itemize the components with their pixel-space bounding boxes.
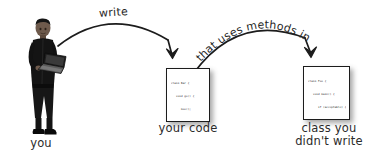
code-line: moo();	[171, 107, 206, 111]
caption-your-code: your code	[146, 122, 230, 135]
uses-arrow-label: that uses methods in	[193, 18, 312, 64]
write-arrowhead	[167, 49, 179, 59]
code-line: explode();	[308, 118, 346, 120]
code-sheet-foreign-class: class Foo { void main() { if (acceptable…	[303, 66, 350, 120]
code-line: class Bar {	[171, 81, 206, 85]
caption-class-you-didnt-write: class you didn't write	[286, 122, 372, 147]
write-arrow-label: write	[99, 5, 129, 20]
code-line: if (acceptable) {	[308, 105, 346, 109]
uses-arrowhead	[305, 47, 317, 58]
write-arrow-curve	[58, 24, 168, 46]
code-line: void go() {	[171, 94, 206, 98]
code-listing-your-code: class Bar { void go() { moo(); } int stu…	[167, 69, 209, 122]
code-line: void main() {	[308, 92, 346, 96]
caption-you: you	[14, 137, 68, 150]
code-sheet-your-code: class Bar { void go() { moo(); } int stu…	[166, 68, 210, 122]
code-line: class Foo {	[308, 79, 346, 83]
code-listing-foreign-class: class Foo { void main() { if (acceptable…	[304, 67, 349, 120]
diagram-canvas: that uses methods in write class Bar { v…	[0, 0, 379, 158]
